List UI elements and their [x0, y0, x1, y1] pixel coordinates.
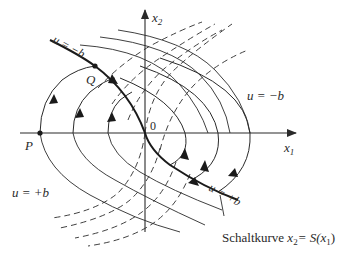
- x2-axis-label: x2: [151, 10, 163, 27]
- phase-plane-diagram: x2 x1 0 P Q u = −b u = −b u = +b u = +b …: [0, 0, 342, 259]
- arrow-down-icon: [228, 168, 238, 177]
- switching-curve-label: Schaltkurve x2= S(x1): [222, 230, 335, 247]
- region-label-upper-left-curve: u = −b: [51, 32, 88, 60]
- dashed-trajectories-upper: [98, 22, 248, 150]
- region-label-lower-left: u = +b: [12, 185, 50, 200]
- point-Q: [92, 63, 97, 68]
- arrow-up-icon: [49, 94, 58, 104]
- arrow-down-icon: [200, 160, 209, 172]
- arrow-up-icon: [107, 112, 116, 122]
- region-label-lower-right-curve: u = +b: [207, 180, 244, 208]
- region-label-upper-right: u = −b: [247, 88, 285, 103]
- x1-axis-label: x1: [283, 140, 294, 157]
- switching-curve: [50, 40, 238, 200]
- point-P-label: P: [24, 138, 33, 153]
- arrow-down-icon: [180, 148, 189, 160]
- origin-label: 0: [150, 119, 156, 133]
- point-P: [37, 130, 42, 135]
- point-Q-label: Q: [86, 72, 96, 87]
